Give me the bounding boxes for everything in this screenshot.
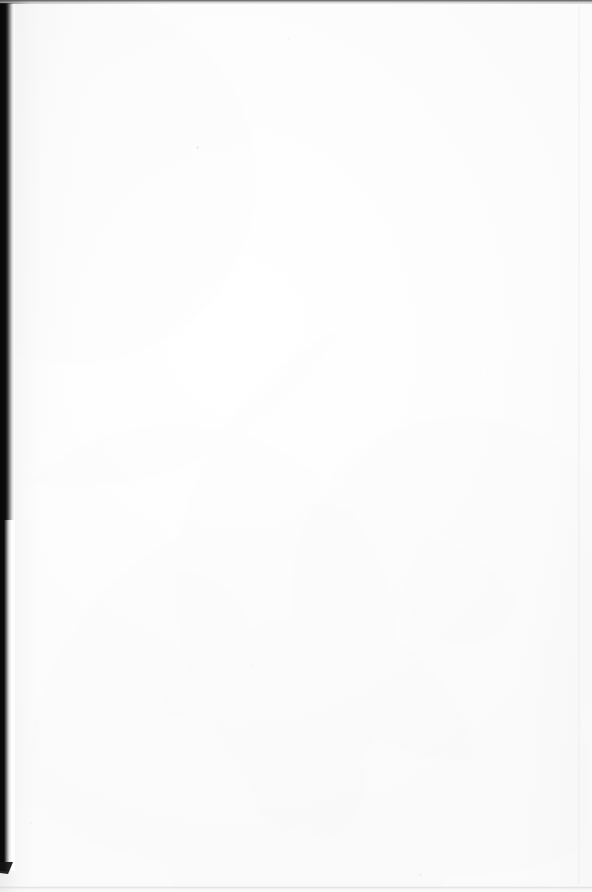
paper-surface	[0, 0, 592, 892]
scanned-page	[0, 0, 592, 892]
page-text-area	[60, 70, 542, 822]
